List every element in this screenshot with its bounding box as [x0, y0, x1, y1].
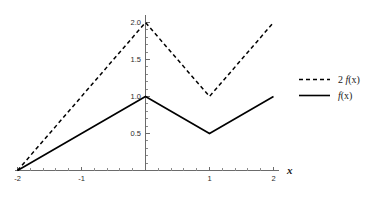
y-tick-label-1-5: 1.5 — [131, 55, 141, 64]
legend-label-fx: f(x) — [338, 90, 352, 102]
plot-figure: -2 -1 1 2 0.5 1.0 1.5 2.0 x 2 f(x) f(x) — [0, 0, 368, 207]
y-tick-label-2-0: 2.0 — [131, 18, 141, 27]
x-axis-title: x — [286, 164, 293, 176]
x-tick-label-2: 2 — [271, 174, 275, 183]
chart-legend: 2 f(x) f(x) — [299, 74, 360, 102]
chart-canvas: -2 -1 1 2 0.5 1.0 1.5 2.0 x 2 f(x) f(x) — [0, 0, 368, 207]
y-tick-label-0-5: 0.5 — [131, 129, 141, 138]
y-axis-major-ticks — [146, 23, 150, 134]
x-tick-label-1: 1 — [207, 174, 211, 183]
x-tick-label--2: -2 — [14, 174, 21, 183]
x-tick-label--1: -1 — [78, 174, 85, 183]
legend-label-2fx: 2 f(x) — [338, 74, 360, 86]
